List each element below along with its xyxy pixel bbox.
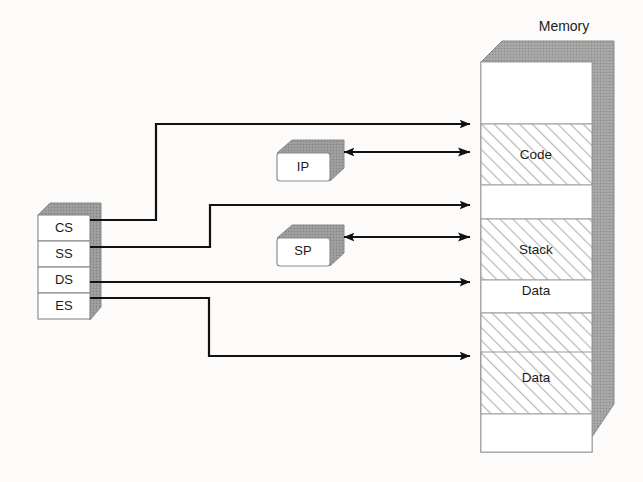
segment-register-label-cs: CS bbox=[55, 220, 73, 235]
memory-band bbox=[481, 62, 592, 124]
segment-register-label-es: ES bbox=[55, 298, 73, 313]
memory-band-label-data-1: Data bbox=[522, 283, 551, 298]
segment-register-label-ds: DS bbox=[55, 272, 73, 287]
memory-band bbox=[481, 185, 592, 219]
segment-register-label-ss: SS bbox=[55, 246, 73, 261]
connector-es-to-data-2 bbox=[90, 298, 470, 356]
pointer-register-sp-block: SP bbox=[277, 225, 344, 266]
pointer-register-label-sp: SP bbox=[294, 243, 311, 258]
memory-title-label: Memory bbox=[539, 18, 590, 34]
memory-block: Code Stack Data Data Memory bbox=[481, 18, 614, 452]
diagram-canvas: Code Stack Data Data Memory CS SS DS ES … bbox=[0, 0, 643, 482]
memory-band-label-data-2: Data bbox=[522, 370, 551, 385]
pointer-register-label-ip: IP bbox=[297, 159, 309, 174]
memory-entry-arrowheads bbox=[458, 148, 471, 242]
memory-band bbox=[481, 414, 592, 452]
memory-band-label-stack: Stack bbox=[519, 242, 553, 257]
memory-band-label-code: Code bbox=[520, 147, 552, 162]
memory-segmentation-diagram: Code Stack Data Data Memory CS SS DS ES … bbox=[0, 0, 643, 482]
pointer-register-ip-block: IP bbox=[277, 140, 344, 181]
